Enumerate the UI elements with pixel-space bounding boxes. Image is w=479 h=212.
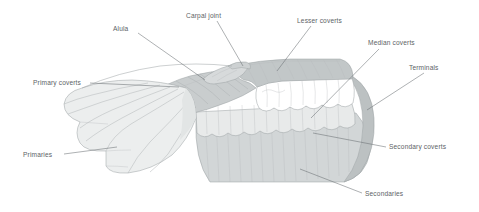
label-primary-coverts: Primary coverts: [33, 79, 82, 87]
label-alula: Alula: [113, 25, 129, 32]
label-lesser-coverts: Lesser coverts: [297, 17, 343, 24]
label-secondaries: Secondaries: [365, 190, 404, 197]
label-secondary-coverts: Secondary coverts: [389, 143, 447, 151]
label-terminals: Terminals: [409, 64, 439, 71]
wing-diagram-canvas: Alula Carpal joint Lesser coverts Median…: [0, 0, 479, 212]
label-carpal-joint: Carpal joint: [186, 12, 221, 20]
bird-wing-diagram: Alula Carpal joint Lesser coverts Median…: [0, 0, 479, 212]
label-primaries: Primaries: [23, 151, 53, 158]
label-median-coverts: Median coverts: [368, 39, 415, 46]
